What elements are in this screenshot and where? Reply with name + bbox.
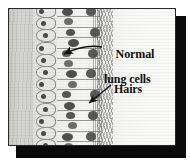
basal-cell-nucleus (39, 9, 44, 14)
basal-cell-layer-region (33, 9, 59, 145)
columnar-cell-nucleus (66, 29, 75, 36)
columnar-cell-nucleus (68, 81, 77, 88)
columnar-cell-nucleus (62, 50, 71, 57)
basal-cell (36, 17, 56, 30)
basal-cell-nucleus (43, 143, 48, 146)
columnar-cell-nucleus (62, 8, 73, 16)
basal-cell (36, 90, 56, 103)
label-normal-line1: Normal (116, 47, 155, 61)
basal-cell-nucleus (41, 131, 46, 136)
basal-cell-nucleus (41, 58, 46, 63)
basal-cell-nucleus (39, 119, 44, 124)
columnar-cell-nucleus (64, 60, 73, 67)
columnar-cell-nucleus (64, 102, 75, 110)
basal-cell-nucleus (43, 107, 48, 112)
columnar-cell-nucleus (62, 133, 73, 141)
figure-stage: Normal lung cells Hairs (0, 0, 190, 162)
basal-cell (36, 127, 56, 140)
basal-cell (36, 54, 56, 67)
columnar-cell-nucleus (66, 112, 75, 119)
columnar-cell-nucleus (64, 143, 73, 146)
basal-cell-nucleus (43, 70, 48, 75)
label-normal-lung-cells: Normal lung cells (104, 36, 154, 109)
basal-cell-nucleus (39, 46, 44, 51)
label-hairs: Hairs (114, 83, 142, 95)
